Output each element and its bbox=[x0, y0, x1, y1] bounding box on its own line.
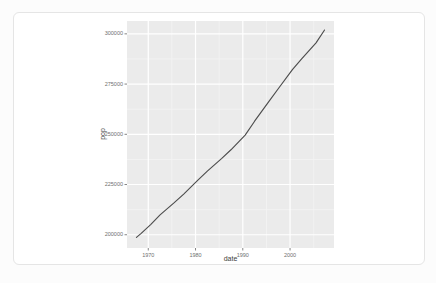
y-tick-label: 275000 bbox=[83, 81, 123, 88]
y-tick-label: 225000 bbox=[83, 181, 123, 188]
page-background: 200000225000250000275000300000 197019801… bbox=[0, 0, 436, 283]
figure: 200000225000250000275000300000 197019801… bbox=[14, 13, 424, 264]
y-tick-label: 200000 bbox=[83, 231, 123, 238]
line-chart bbox=[14, 13, 424, 264]
y-axis-title: pop bbox=[99, 116, 106, 152]
x-axis-title: date bbox=[127, 255, 334, 262]
plot-output-card: 200000225000250000275000300000 197019801… bbox=[13, 12, 425, 265]
y-tick-label: 300000 bbox=[83, 30, 123, 37]
